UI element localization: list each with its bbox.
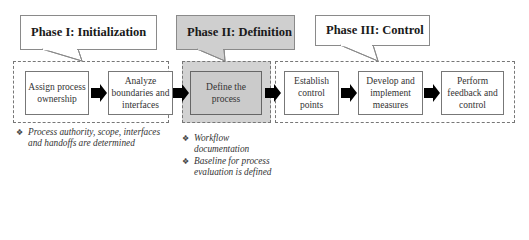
step-define-process: Define the process	[190, 71, 262, 115]
note-item: ❖ Workflow documentation	[182, 133, 277, 155]
bullet-icon: ❖	[182, 133, 189, 144]
step-assign-process-ownership: Assign process ownership	[25, 71, 89, 115]
arrow-right-icon	[265, 84, 281, 102]
phase-1-notes: ❖ Process authority, scope, interfaces a…	[16, 127, 176, 149]
note-item: ❖ Process authority, scope, interfaces a…	[16, 127, 176, 149]
arrow-right-icon	[91, 84, 107, 102]
arrow-right-icon	[424, 84, 440, 102]
bullet-icon: ❖	[182, 156, 189, 167]
step-perform-feedback-control: Perform feedback and control	[441, 71, 504, 115]
arrow-right-icon	[341, 84, 357, 102]
phase-2-notes: ❖ Workflow documentation ❖ Baseline for …	[182, 133, 277, 178]
step-establish-control-points: Establish control points	[284, 71, 339, 115]
step-develop-implement-measures: Develop and implement measures	[358, 71, 423, 115]
bullet-icon: ❖	[16, 127, 23, 138]
note-item: ❖ Baseline for process evaluation is def…	[182, 156, 277, 178]
arrow-right-icon	[173, 84, 189, 102]
step-analyze-boundaries: Analyze boundaries and interfaces	[108, 71, 173, 115]
